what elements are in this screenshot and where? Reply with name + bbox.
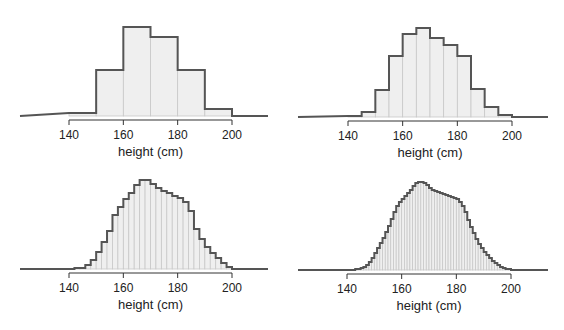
histogram-bar (145, 180, 150, 269)
histogram-bar (444, 45, 458, 117)
histogram-bar (459, 202, 462, 270)
x-tick-label: 200 (501, 282, 521, 296)
histogram-bar (448, 196, 451, 270)
x-axis-label: height (cm) (118, 144, 183, 159)
histogram-bar (403, 34, 417, 117)
histogram-bar (437, 192, 440, 270)
histogram-bar (415, 183, 418, 270)
x-tick-label: 180 (168, 281, 188, 295)
histogram-bar (161, 191, 166, 269)
histogram-bar (393, 212, 396, 270)
histogram-bar (471, 89, 485, 117)
x-tick-label: 160 (393, 129, 413, 143)
histogram-bar (404, 196, 407, 270)
histogram-bar (432, 190, 435, 270)
histogram-bar (396, 206, 399, 270)
histogram-bar (129, 193, 134, 269)
histogram-bar (399, 202, 402, 270)
histogram-bar (134, 185, 139, 269)
x-tick-label: 160 (392, 282, 412, 296)
histogram-bar (424, 183, 427, 270)
histogram-bar (402, 199, 405, 270)
x-tick-label: 140 (337, 282, 357, 296)
x-tick-label: 180 (168, 128, 188, 142)
histogram-bar (430, 38, 444, 117)
histogram-bar (451, 197, 454, 270)
x-tick-label: 180 (446, 282, 466, 296)
x-tick-label: 200 (222, 128, 242, 142)
histogram-bar (151, 184, 156, 269)
histogram-figure: 140160180200height (cm) 140160180200heig… (0, 0, 564, 330)
histogram-bar (421, 182, 424, 270)
histogram-bar (418, 182, 421, 270)
histogram-bar (462, 206, 465, 270)
histogram-bar (410, 190, 413, 270)
histogram-bar (183, 202, 188, 269)
histogram-panel-bin10: 140160180200height (cm) (20, 27, 268, 159)
x-axis-label: height (cm) (396, 298, 461, 313)
histogram-bar (156, 188, 161, 269)
histogram-panel-bin5: 140160180200height (cm) (298, 28, 548, 160)
histogram-bar (205, 109, 232, 116)
x-tick-label: 200 (502, 129, 522, 143)
x-tick-label: 160 (113, 128, 133, 142)
histogram-bar (445, 195, 448, 270)
histogram-panel-bin1: 140160180200height (cm) (298, 182, 548, 313)
histogram-bar (426, 185, 429, 270)
histogram-panel-bin2: 140160180200height (cm) (20, 180, 268, 312)
x-tick-label: 140 (59, 128, 79, 142)
histogram-bar (167, 193, 172, 269)
histogram-bar (140, 180, 145, 269)
histogram-bar (96, 70, 123, 116)
x-axis-label: height (cm) (118, 297, 183, 312)
histogram-bar (456, 199, 459, 270)
histogram-bar (434, 191, 437, 270)
histogram-bar (457, 56, 471, 117)
histogram-bar (485, 107, 499, 117)
x-tick-label: 140 (59, 281, 79, 295)
histogram-bar (151, 37, 178, 116)
histogram-bar (178, 70, 205, 116)
histogram-bar (429, 188, 432, 270)
x-tick-label: 160 (113, 281, 133, 295)
histogram-bar (413, 186, 416, 270)
x-axis-label: height (cm) (397, 145, 462, 160)
histogram-bar (178, 198, 183, 269)
histogram-bar (443, 194, 446, 270)
histogram-bar (407, 193, 410, 270)
histogram-bar (172, 196, 177, 269)
histogram-bar (123, 27, 150, 116)
histogram-bar (375, 90, 389, 117)
histogram-bar (118, 207, 123, 269)
histogram-bar (389, 56, 403, 117)
histogram-bar (416, 28, 430, 117)
x-tick-label: 140 (338, 129, 358, 143)
x-tick-label: 180 (447, 129, 467, 143)
x-tick-label: 200 (222, 281, 242, 295)
histogram-bar (440, 193, 443, 270)
histogram-bar (123, 199, 128, 269)
histogram-bar (454, 198, 457, 270)
